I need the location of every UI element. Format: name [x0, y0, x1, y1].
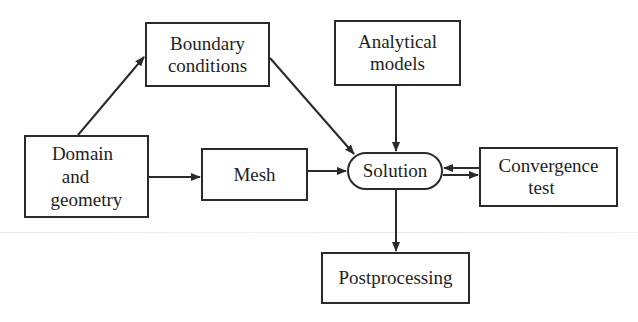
node-domain-and-geometry: Domain and geometry — [24, 135, 149, 218]
node-label-line: Boundary — [170, 33, 245, 55]
node-convergence-test: Convergence test — [479, 147, 618, 207]
node-label-line: Analytical — [358, 31, 437, 53]
edge-domain-to-boundary — [78, 57, 144, 135]
node-solution: Solution — [347, 152, 443, 190]
node-postprocessing: Postprocessing — [321, 252, 470, 304]
node-label-line: models — [370, 53, 425, 75]
node-label-line: Solution — [363, 160, 427, 182]
node-analytical-models: Analytical models — [334, 20, 461, 86]
node-label-line: test — [528, 177, 554, 199]
node-label-line: geometry — [51, 188, 123, 211]
node-label-line: Convergence — [499, 155, 599, 177]
node-label-line: Mesh — [233, 164, 275, 186]
node-label-line: Domain — [52, 142, 113, 165]
node-label-line: Postprocessing — [339, 267, 453, 289]
node-label-line: conditions — [168, 55, 247, 77]
flowchart-canvas: Boundary conditions Analytical models Do… — [0, 0, 638, 322]
node-boundary-conditions: Boundary conditions — [145, 22, 270, 87]
node-label-line: and — [62, 165, 89, 188]
node-mesh: Mesh — [201, 148, 308, 201]
